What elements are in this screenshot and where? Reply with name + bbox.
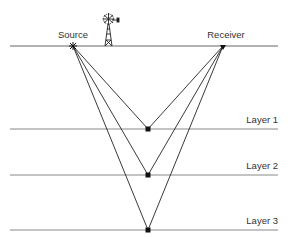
source-label: Source	[58, 29, 88, 40]
ray-layer-2	[73, 46, 223, 175]
layer-1-label: Layer 1	[246, 114, 278, 125]
ray-layer-1	[73, 46, 223, 129]
windmill-icon	[103, 13, 120, 46]
receiver-label: Receiver	[207, 29, 245, 40]
source-marker-icon	[69, 42, 77, 50]
ray-paths	[73, 46, 223, 230]
ray-layer-3	[73, 46, 223, 230]
seismic-diagram: Source Receiver Layer 1 Layer 2 Layer 3	[0, 0, 304, 237]
reflection-point-3	[146, 228, 151, 233]
layer-2-label: Layer 2	[246, 160, 278, 171]
reflection-point-1	[146, 127, 151, 132]
reflection-point-2	[146, 173, 151, 178]
layer-3-label: Layer 3	[246, 215, 278, 226]
